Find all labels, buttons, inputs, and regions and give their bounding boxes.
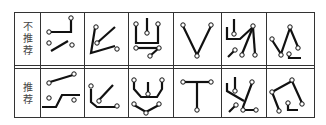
row-recommended: 推 荐 [15,69,314,118]
bad-trace-diagram-6 [267,13,316,65]
good-trace-diagram-4 [174,69,221,118]
bad-trace-diagram-1 [41,13,84,65]
good-trace-diagram-1 [41,69,84,118]
good-trace-diagram-3 [129,69,173,118]
good-trace-diagram-5 [222,69,266,118]
bad-trace-diagram-5 [222,13,266,65]
label-char: 推 [23,82,33,94]
label-char: 荐 [23,45,33,57]
bad-trace-diagram-4 [174,13,221,65]
good-trace-diagram-6 [267,69,316,118]
row-not-recommended: 不 推 荐 [15,13,314,65]
bad-trace-diagram-2 [85,13,128,65]
bad-trace-diagram-3 [129,13,173,65]
label-char: 推 [23,33,33,45]
label-char: 不 [23,21,33,33]
row-label-not-recommended: 不 推 荐 [15,13,41,65]
good-trace-diagram-2 [85,69,128,118]
label-char: 荐 [23,94,33,106]
row-label-recommended: 推 荐 [15,69,41,118]
routing-comparison-table: 不 推 荐 [14,12,315,118]
